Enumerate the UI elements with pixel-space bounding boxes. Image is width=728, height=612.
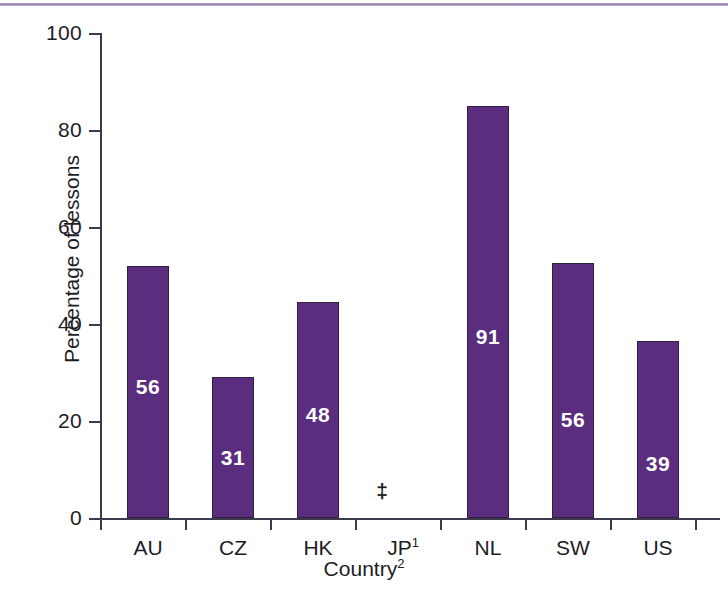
suppressed-marker-JP: ‡ (361, 480, 403, 501)
page-top-rule (0, 3, 728, 6)
x-label-JP-superscript: 1 (412, 535, 419, 550)
y-tick-60 (89, 227, 100, 229)
plot-area: 100 80 60 40 20 0 56 31 48 ‡ 91 (100, 33, 720, 518)
x-boundary-tick-2 (270, 518, 272, 530)
x-label-NL-text: NL (475, 536, 502, 559)
x-label-AU-text: AU (133, 536, 162, 559)
y-tick-label-0: 0 (32, 506, 82, 530)
x-axis-title-superscript: 2 (397, 556, 404, 571)
y-axis-line (100, 33, 102, 519)
x-axis-line (100, 518, 720, 520)
bar-value-AU: 56 (128, 375, 168, 399)
x-label-SW-text: SW (556, 536, 590, 559)
y-tick-80 (89, 130, 100, 132)
y-tick-100 (89, 33, 100, 35)
x-boundary-tick-3 (355, 518, 357, 530)
bar-NL: 91 (467, 106, 509, 518)
bar-value-US: 39 (638, 452, 678, 476)
x-label-CZ-text: CZ (219, 536, 247, 559)
bar-value-CZ: 31 (213, 446, 253, 470)
x-boundary-tick-4 (440, 518, 442, 530)
y-tick-0 (89, 518, 100, 520)
x-label-US-text: US (643, 536, 672, 559)
bar-SW: 56 (552, 263, 594, 518)
x-label-HK-text: HK (303, 536, 332, 559)
x-boundary-tick-0 (100, 518, 102, 530)
x-boundary-tick-1 (185, 518, 187, 530)
y-tick-label-100: 100 (32, 21, 82, 45)
bar-value-HK: 48 (298, 403, 338, 427)
x-axis-title-text: Country (324, 557, 398, 580)
x-boundary-tick-5 (525, 518, 527, 530)
y-tick-40 (89, 324, 100, 326)
bar-HK: 48 (297, 302, 339, 518)
bar-US: 39 (637, 341, 679, 518)
bar-AU: 56 (127, 266, 169, 518)
bar-chart-figure: 100 80 60 40 20 0 56 31 48 ‡ 91 (0, 0, 728, 612)
x-boundary-tick-6 (610, 518, 612, 530)
bar-value-NL: 91 (468, 325, 508, 349)
y-axis-title: Percentage of lessons (60, 49, 84, 469)
x-boundary-tick-7 (695, 518, 697, 530)
bar-value-SW: 56 (553, 408, 593, 432)
bar-CZ: 31 (212, 377, 254, 518)
x-axis-title: Country2 (0, 557, 728, 581)
y-tick-20 (89, 421, 100, 423)
